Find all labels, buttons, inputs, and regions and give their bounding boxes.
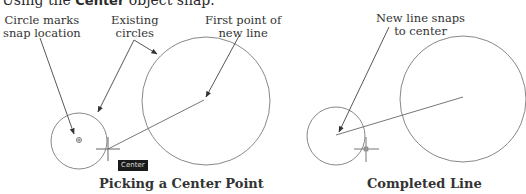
completed-line: [336, 97, 463, 135]
crosshair-cursor-right-icon: [354, 137, 379, 162]
large-circle-left: [142, 37, 270, 165]
callout-line-2: snap location: [3, 27, 81, 40]
osnap-tooltip: Center: [118, 160, 148, 171]
small-circle-right: [307, 107, 365, 165]
leader-first-point: [206, 36, 239, 97]
crosshair-cursor-icon: [96, 137, 120, 161]
caption-right: Completed Line: [367, 176, 482, 191]
right-panel-geometry: [307, 27, 526, 165]
leader-new-line-snaps: [339, 27, 389, 132]
callout-line-2: to center: [376, 25, 465, 38]
callout-line-2: circles: [111, 27, 159, 40]
leader-circle-marks: [40, 38, 74, 134]
callout-existing-circles: Existing circles: [111, 14, 159, 40]
caption-left: Picking a Center Point: [99, 176, 264, 191]
callout-new-line-snaps: New line snaps to center: [376, 12, 465, 38]
leader-existing-circles-b: [134, 40, 157, 54]
callout-first-point: First point of new line: [205, 14, 281, 40]
leader-existing-circles-a: [98, 40, 134, 112]
left-panel-geometry: [40, 36, 270, 169]
callout-line-2: new line: [205, 27, 281, 40]
callout-circle-marks: Circle marks snap location: [3, 14, 81, 40]
large-circle-right: [400, 36, 526, 162]
